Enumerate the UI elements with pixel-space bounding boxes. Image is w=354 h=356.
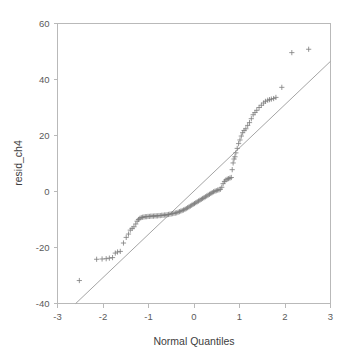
y-axis-tick-labels: -40-200204060: [36, 18, 50, 309]
data-point-marker: [226, 176, 231, 181]
x-tick-label: -1: [144, 311, 152, 322]
data-point-marker: [239, 133, 244, 138]
x-axis-tick-marks: [58, 304, 331, 308]
data-point-marker: [230, 167, 235, 172]
data-point-marker: [222, 179, 227, 184]
x-tick-label: 1: [237, 311, 242, 322]
data-point-marker: [107, 256, 112, 261]
x-tick-label: -3: [53, 311, 61, 322]
x-tick-label: 2: [282, 311, 287, 322]
data-point-marker: [110, 255, 115, 260]
data-point-marker: [221, 181, 226, 186]
y-axis-tick-marks: [54, 24, 58, 304]
data-point-marker: [121, 240, 126, 245]
qq-plot-figure: -3-2-10123 -40-200204060 Normal Quantile…: [0, 0, 354, 356]
data-point-marker: [212, 189, 217, 194]
data-point-marker: [118, 249, 123, 254]
normal-reference-line: [76, 61, 331, 303]
data-point-marker: [94, 257, 99, 262]
data-point-marker: [259, 103, 264, 108]
data-point-marker: [236, 141, 241, 146]
data-point-marker: [256, 105, 261, 110]
y-tick-label: 60: [39, 18, 50, 29]
data-point-marker: [233, 150, 238, 155]
x-axis-tick-labels: -3-2-10123: [53, 311, 333, 322]
data-point-marker: [237, 137, 242, 142]
y-tick-label: 20: [39, 130, 50, 141]
data-point-marker: [273, 95, 278, 100]
data-point-marker: [115, 249, 120, 254]
y-tick-label: -20: [36, 242, 50, 253]
y-tick-label: 40: [39, 74, 50, 85]
scatter-data-points: [77, 47, 312, 283]
data-point-marker: [137, 216, 142, 221]
y-tick-label: 0: [44, 186, 49, 197]
data-point-marker: [232, 154, 237, 159]
data-point-marker: [289, 50, 294, 55]
data-point-marker: [279, 85, 284, 90]
qq-plot-canvas: -3-2-10123 -40-200204060 Normal Quantile…: [0, 0, 354, 356]
data-point-marker: [216, 187, 221, 192]
data-point-marker: [124, 235, 129, 240]
x-axis-title: Normal Quantiles: [153, 335, 234, 347]
data-point-marker: [306, 47, 311, 52]
y-tick-label: -40: [36, 298, 50, 309]
data-point-marker: [104, 256, 109, 261]
data-point-marker: [113, 251, 118, 256]
x-tick-label: 3: [328, 311, 333, 322]
data-point-marker: [231, 156, 236, 161]
data-point-marker: [240, 130, 245, 135]
data-point-marker: [271, 96, 276, 101]
data-point-marker: [235, 146, 240, 151]
data-point-marker: [231, 160, 236, 165]
x-tick-label: -2: [99, 311, 107, 322]
plot-frame: [58, 24, 331, 304]
data-point-marker: [77, 278, 82, 283]
x-tick-label: 0: [191, 311, 196, 322]
y-axis-title: resid_ch4: [12, 140, 24, 186]
